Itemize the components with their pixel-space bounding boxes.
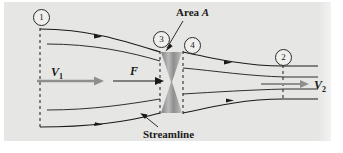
force-arrow — [113, 77, 164, 85]
v1-subscript: 1 — [59, 72, 63, 81]
area-label: Area A — [176, 6, 209, 18]
station-marker-4[interactable]: 4 — [184, 37, 201, 54]
area-symbol: A — [202, 6, 209, 18]
station-marker-2[interactable]: 2 — [275, 49, 292, 66]
station-marker-3[interactable]: 3 — [153, 31, 170, 48]
v1-velocity-arrow — [37, 77, 104, 86]
v2-subscript: 2 — [322, 85, 326, 94]
v2-symbol: V — [314, 78, 322, 92]
area-label-text: Area — [176, 6, 199, 18]
v1-label: V1 — [51, 65, 63, 81]
station-marker-1[interactable]: 1 — [33, 9, 50, 26]
actuator-disk — [161, 52, 182, 113]
v1-symbol: V — [51, 65, 59, 79]
streamline-label: Streamline — [143, 128, 194, 140]
figure-container: 1 3 4 2 Area A Streamline V1 V2 F — [0, 0, 343, 153]
force-label: F — [130, 64, 138, 79]
v2-velocity-arrow — [261, 80, 309, 88]
streamline-leader-line — [140, 113, 158, 127]
v2-label: V2 — [314, 78, 326, 94]
